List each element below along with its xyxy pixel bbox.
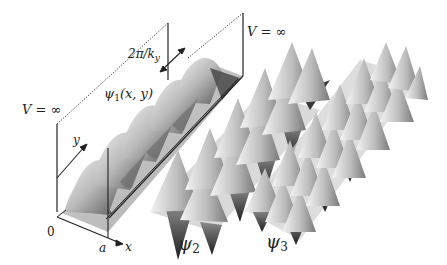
- x-axis-label: x: [125, 240, 132, 254]
- quantum-well-diagram: V = ∞ V = ∞ 2π/ky ψ1(x, y) ψ2 ψ3 0 a x y: [0, 0, 447, 265]
- origin-label: 0: [47, 225, 55, 239]
- y-axis-label: y: [72, 133, 80, 147]
- x-axis-arrow: [108, 238, 123, 246]
- v-infinity-right-label: V = ∞: [247, 24, 286, 39]
- wavelength-arrow: [160, 48, 185, 72]
- a-label: a: [99, 241, 106, 255]
- psi3-label: ψ3: [266, 231, 288, 254]
- psi2-label: ψ2: [178, 233, 200, 256]
- psi1-label: ψ1(x, y): [104, 86, 153, 103]
- wavelength-label: 2π/ky: [127, 47, 161, 63]
- v-infinity-left-label: V = ∞: [22, 102, 61, 117]
